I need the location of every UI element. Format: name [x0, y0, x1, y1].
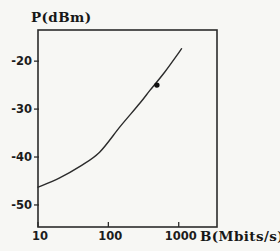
x-axis-title: B(Mbits/s)	[200, 228, 280, 244]
figure: 101001000-20-30-40-50 P(dBm) B(Mbits/s)	[0, 0, 280, 251]
measured-data-point	[154, 82, 159, 87]
plot-frame	[38, 30, 217, 227]
x-tick-label: 10	[32, 229, 48, 243]
y-tick-label: -30	[11, 102, 32, 116]
y-tick-label: -40	[11, 150, 32, 164]
chart-canvas: 101001000-20-30-40-50	[0, 0, 280, 251]
y-tick-label: -50	[11, 198, 32, 212]
y-tick-label: -20	[11, 54, 32, 68]
x-tick-label: 100	[98, 229, 122, 243]
x-tick-label: 1000	[165, 229, 197, 243]
sensitivity-curve	[38, 49, 182, 188]
y-axis-title: P(dBm)	[31, 9, 91, 25]
